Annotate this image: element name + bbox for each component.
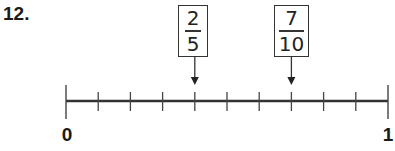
fraction-numerator: 7 xyxy=(285,8,298,28)
end-label: 1 xyxy=(383,124,394,146)
start-label: 0 xyxy=(62,124,73,146)
fraction-denominator: 5 xyxy=(187,34,200,54)
fraction-numerator: 2 xyxy=(187,8,200,28)
arrow-icon xyxy=(287,57,295,85)
fraction-denominator: 10 xyxy=(279,34,304,54)
arrow-icon xyxy=(191,57,199,85)
fraction-marker-2-5: 2 5 xyxy=(178,5,208,57)
fraction-marker-7-10: 7 10 xyxy=(274,5,309,57)
